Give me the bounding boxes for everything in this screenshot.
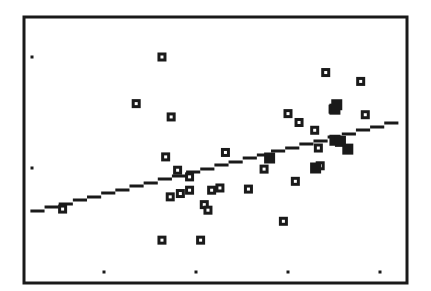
regression-segment (285, 147, 299, 150)
data-point-hole (176, 169, 179, 172)
data-point-hole (210, 189, 213, 192)
data-point-filled (342, 144, 353, 155)
data-point-filled (264, 153, 275, 164)
regression-segment (243, 157, 257, 160)
x-tick-mark (287, 271, 290, 274)
data-point-hole (313, 129, 316, 132)
data-point-filled (310, 163, 321, 174)
regression-segment (73, 199, 87, 202)
scatter-plot (0, 0, 431, 291)
data-point-hole (169, 195, 172, 198)
regression-segment (144, 182, 158, 185)
data-point-hole (188, 175, 191, 178)
data-point-hole (199, 239, 202, 242)
data-point-hole (179, 192, 182, 195)
x-tick-mark (195, 271, 198, 274)
data-point-hole (324, 71, 327, 74)
data-point-hole (206, 209, 209, 212)
regression-segment (342, 133, 356, 136)
data-point-hole (287, 112, 290, 115)
regression-segment (229, 161, 243, 164)
regression-segment (313, 140, 327, 143)
data-point-hole (224, 151, 227, 154)
y-tick-mark (31, 56, 34, 59)
data-point-hole (218, 186, 221, 189)
data-point-filled (331, 99, 342, 110)
data-point-hole (135, 102, 138, 105)
regression-segment (87, 196, 101, 199)
regression-segment (115, 189, 129, 192)
data-point-hole (359, 80, 362, 83)
regression-segment (200, 168, 214, 171)
regression-segment (101, 192, 115, 195)
data-point-hole (160, 56, 163, 59)
regression-segment (370, 126, 384, 129)
regression-segment (356, 129, 370, 132)
regression-segment (172, 175, 186, 178)
data-point-hole (247, 188, 250, 191)
data-point-hole (170, 115, 173, 118)
regression-segment (45, 206, 59, 209)
y-tick-mark (31, 167, 34, 170)
regression-segment (384, 122, 398, 125)
regression-segment (129, 185, 143, 188)
regression-segment (158, 178, 172, 181)
regression-segment (214, 164, 228, 167)
x-tick-mark (103, 271, 106, 274)
data-point-hole (282, 220, 285, 223)
data-point-hole (164, 155, 167, 158)
data-point-hole (317, 147, 320, 150)
data-point-hole (294, 180, 297, 183)
data-point-hole (263, 168, 266, 171)
regression-segment (30, 210, 44, 213)
data-point-hole (188, 189, 191, 192)
regression-segment (299, 143, 313, 146)
data-point-hole (298, 121, 301, 124)
data-point-hole (61, 208, 64, 211)
data-point-hole (160, 239, 163, 242)
regression-segment (271, 150, 285, 153)
x-tick-mark (379, 271, 382, 274)
data-point-hole (364, 113, 367, 116)
